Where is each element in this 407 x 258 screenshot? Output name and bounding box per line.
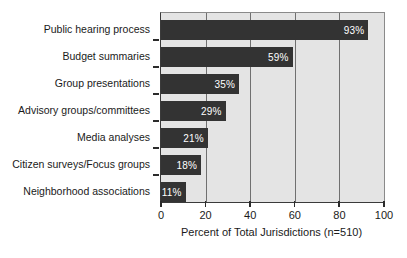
category-label: Media analyses bbox=[77, 132, 150, 143]
tick-mark-row-4 bbox=[153, 120, 159, 122]
bar: 11% bbox=[161, 182, 186, 202]
bar: 35% bbox=[161, 74, 239, 94]
x-tick-mark-40 bbox=[249, 201, 251, 207]
bar-value-label: 59% bbox=[268, 52, 293, 63]
bar-value-label: 93% bbox=[344, 25, 369, 36]
bar-value-label: 18% bbox=[176, 160, 201, 171]
bar-chart: Public hearing process Budget summaries … bbox=[0, 0, 407, 258]
gridline-80 bbox=[339, 13, 340, 202]
x-tick-label: 0 bbox=[158, 209, 164, 221]
x-tick-mark-20 bbox=[205, 201, 207, 207]
x-tick-mark-0 bbox=[160, 201, 162, 207]
x-tick-label: 100 bbox=[375, 209, 393, 221]
tick-mark-row-6 bbox=[153, 174, 159, 176]
x-tick-mark-60 bbox=[294, 201, 296, 207]
bar-value-label: 21% bbox=[183, 133, 208, 144]
category-axis-labels: Public hearing process Budget summaries … bbox=[0, 12, 155, 201]
x-tick-label: 60 bbox=[289, 209, 301, 221]
x-tick-mark-100 bbox=[383, 201, 385, 207]
tick-mark-row-3 bbox=[153, 93, 159, 95]
bar: 93% bbox=[161, 20, 368, 40]
category-label: Citizen surveys/Focus groups bbox=[12, 159, 150, 170]
tick-mark-row-1 bbox=[153, 39, 159, 41]
bar: 18% bbox=[161, 155, 201, 175]
x-tick-label: 80 bbox=[333, 209, 345, 221]
tick-mark-row-5 bbox=[153, 147, 159, 149]
category-label: Budget summaries bbox=[62, 51, 150, 62]
x-tick-label: 40 bbox=[244, 209, 256, 221]
bar-value-label: 29% bbox=[201, 106, 226, 117]
tick-mark-row-2 bbox=[153, 66, 159, 68]
bar: 29% bbox=[161, 101, 226, 121]
plot-area: 93% 59% 35% 29% 21% 18% 11% bbox=[160, 12, 385, 203]
gridline-40 bbox=[250, 13, 251, 202]
category-label: Advisory groups/committees bbox=[18, 105, 150, 116]
x-tick-mark-80 bbox=[338, 201, 340, 207]
category-label: Group presentations bbox=[55, 78, 150, 89]
x-axis-title: Percent of Total Jurisdictions (n=510) bbox=[160, 226, 383, 238]
bar-value-label: 35% bbox=[214, 79, 239, 90]
gridline-60 bbox=[295, 13, 296, 202]
bar: 21% bbox=[161, 128, 208, 148]
bar: 59% bbox=[161, 47, 293, 67]
x-tick-label: 20 bbox=[199, 209, 211, 221]
category-label: Public hearing process bbox=[44, 24, 150, 35]
category-label: Neighborhood associations bbox=[23, 186, 150, 197]
bar-value-label: 11% bbox=[162, 187, 186, 198]
